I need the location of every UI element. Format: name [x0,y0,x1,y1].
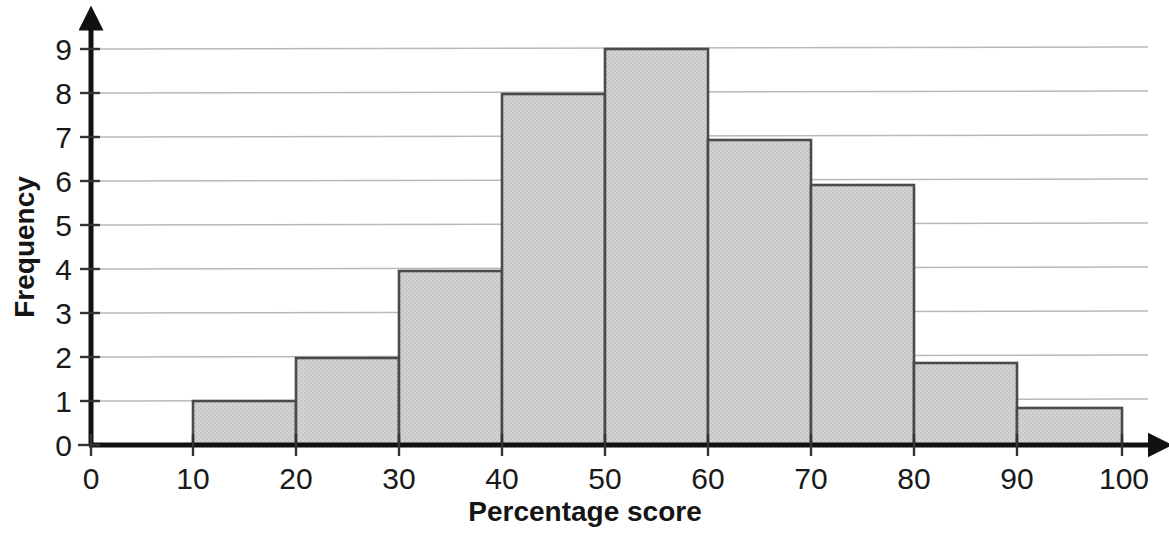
bar-40-50 [502,94,605,445]
bar-90-100 [1017,408,1122,445]
y-tick-label-4: 4 [55,253,72,286]
bar-10-20 [193,401,296,445]
x-tick-label-40: 40 [485,462,518,495]
bar-20-30 [296,358,399,445]
y-tick-label-1: 1 [55,385,72,418]
x-axis-title: Percentage score [468,496,701,527]
x-tick-label-30: 30 [382,462,415,495]
x-tick-label-20: 20 [279,462,312,495]
bar-60-70 [708,140,811,445]
y-tick-label-9: 9 [55,33,72,66]
x-tick-label-70: 70 [794,462,827,495]
bar-50-60 [605,49,708,445]
x-tick-label-60: 60 [691,462,724,495]
bar-70-80 [811,185,914,445]
y-tick-label-8: 8 [55,77,72,110]
y-tick-label-5: 5 [55,209,72,242]
y-tick-label-7: 7 [55,121,72,154]
y-tick-label-6: 6 [55,165,72,198]
bar-80-90 [914,363,1017,445]
y-tick-label-2: 2 [55,341,72,374]
y-tick-label-0: 0 [55,429,72,462]
x-tick-label-90: 90 [1000,462,1033,495]
x-tick-label-0: 0 [83,462,100,495]
y-axis-title: Frequency [9,176,40,318]
x-tick-label-80: 80 [897,462,930,495]
y-tick-label-3: 3 [55,297,72,330]
histogram-chart: 0 1 2 3 4 5 6 7 8 9 0 10 20 30 40 50 60 … [0,0,1169,537]
x-tick-label-100: 100 [1099,462,1149,495]
bar-30-40 [399,271,502,445]
chart-canvas: 0 1 2 3 4 5 6 7 8 9 0 10 20 30 40 50 60 … [0,0,1169,537]
x-tick-label-10: 10 [176,462,209,495]
x-tick-label-50: 50 [588,462,621,495]
